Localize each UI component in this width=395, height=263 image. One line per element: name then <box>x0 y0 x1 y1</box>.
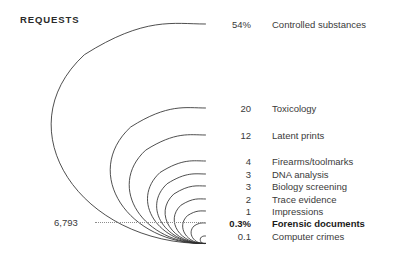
chart-row: 3DNA analysis <box>205 168 329 180</box>
chart-row: 1Impressions <box>205 205 323 217</box>
total-requests-label: 6,793 <box>54 216 78 228</box>
chart-row: 20Toxicology <box>205 102 316 114</box>
chart-row: 54%Controlled substances <box>205 18 366 30</box>
row-value: 54% <box>205 19 251 30</box>
chart-row: 4Firearms/toolmarks <box>205 155 353 167</box>
page-title: REQUESTS <box>20 14 79 25</box>
arc-chart: REQUESTS 6,793 54%Controlled substances2… <box>0 0 395 263</box>
row-label: Firearms/toolmarks <box>272 156 353 167</box>
row-label: Latent prints <box>272 130 324 141</box>
total-requests-value: 6,793 <box>54 217 78 228</box>
chart-row: 3Biology screening <box>205 180 347 192</box>
row-value: 20 <box>205 103 251 114</box>
arc-1 <box>51 23 205 243</box>
row-value: 0.3% <box>205 218 251 229</box>
row-value: 0.1 <box>205 231 251 242</box>
chart-row: 0.1Computer crimes <box>205 230 344 242</box>
row-value: 3 <box>205 169 251 180</box>
arc-5 <box>157 174 206 244</box>
row-label: Impressions <box>272 206 323 217</box>
chart-row: 12Latent prints <box>205 129 324 141</box>
row-label: Trace evidence <box>272 194 337 205</box>
row-value: 4 <box>205 156 251 167</box>
row-value: 1 <box>205 206 251 217</box>
chart-row: 0.3%Forensic documents <box>205 217 365 229</box>
arc-3 <box>129 135 205 244</box>
row-label: DNA analysis <box>272 169 329 180</box>
arc-group <box>51 23 205 243</box>
chart-row: 2Trace evidence <box>205 193 337 205</box>
row-label: Forensic documents <box>272 218 365 229</box>
row-value: 3 <box>205 181 251 192</box>
arc-9 <box>191 223 205 244</box>
row-label: Computer crimes <box>272 231 344 242</box>
row-label: Biology screening <box>272 181 347 192</box>
arc-4 <box>147 161 205 244</box>
row-value: 12 <box>205 130 251 141</box>
row-label: Controlled substances <box>272 19 366 30</box>
row-label: Toxicology <box>272 103 316 114</box>
leader-line <box>95 222 205 224</box>
row-value: 2 <box>205 194 251 205</box>
